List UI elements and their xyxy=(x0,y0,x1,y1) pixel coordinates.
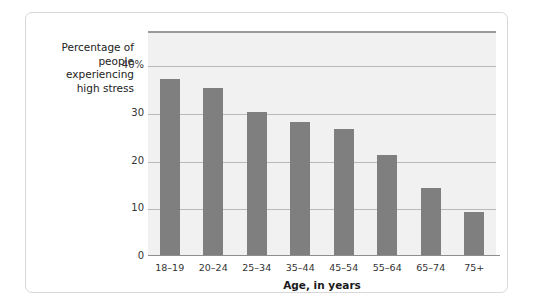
bar xyxy=(247,112,267,255)
gridline xyxy=(148,114,496,115)
bar xyxy=(421,188,441,255)
bar xyxy=(464,212,484,255)
x-axis-tick-labels: 18–1920–2425–3435–4445–5455–6465–7475+ xyxy=(148,259,496,273)
bar xyxy=(203,88,223,255)
x-axis-tick-label: 18–19 xyxy=(155,262,184,273)
y-axis-tick-label: 0 xyxy=(104,250,144,261)
plot-area xyxy=(148,31,496,255)
y-axis-tick-labels: 010203040% xyxy=(98,13,144,292)
x-axis-line xyxy=(148,255,500,256)
gridline xyxy=(148,66,496,67)
gridline xyxy=(148,209,496,210)
y-axis-tick-label: 10 xyxy=(104,202,144,213)
gridline xyxy=(148,162,496,163)
x-axis-tick-label: 25–34 xyxy=(242,262,271,273)
x-axis-tick-label: 55–64 xyxy=(373,262,402,273)
x-axis-tick-label: 45–54 xyxy=(329,262,358,273)
bar xyxy=(334,129,354,255)
x-axis-tick-label: 75+ xyxy=(464,262,484,273)
y-axis-tick-label: 30 xyxy=(104,107,144,118)
x-axis-tick-label: 20–24 xyxy=(199,262,228,273)
x-axis-tick-label: 65–74 xyxy=(416,262,445,273)
bar xyxy=(290,122,310,255)
figure-card: Percentage of people experiencing high s… xyxy=(25,12,508,293)
x-axis-title: Age, in years xyxy=(148,279,496,291)
y-axis-tick-label: 40% xyxy=(104,59,144,70)
y-axis-tick-label: 20 xyxy=(104,154,144,165)
bar xyxy=(377,155,397,255)
bar xyxy=(160,79,180,255)
x-axis-tick-label: 35–44 xyxy=(286,262,315,273)
